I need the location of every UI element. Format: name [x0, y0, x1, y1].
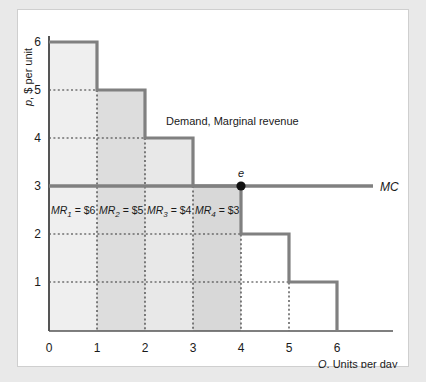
y-tick-4: 4	[34, 131, 41, 145]
equilibrium-point-e	[236, 181, 245, 190]
economics-step-chart: 6 5 4 3 2 1 0 1 2 3 4 5 6	[18, 10, 410, 368]
mr-label-2-prefix: MR	[99, 204, 116, 216]
y-axis-title: p, $ per unit	[22, 48, 34, 107]
x-tick-labels: 0 1 2 3 4 5 6	[46, 341, 341, 355]
mr-label-1-eq: =	[72, 204, 84, 216]
x-tick-4: 4	[238, 341, 245, 355]
y-tick-3: 3	[34, 179, 41, 193]
y-axis-title-text: , $ per unit	[22, 48, 34, 100]
mr-label-3-eq: =	[168, 204, 180, 216]
x-axis-title: Q, Units per day	[318, 358, 398, 368]
y-tick-labels: 6 5 4 3 2 1	[34, 35, 41, 289]
equilibrium-point-label: e	[238, 167, 244, 179]
x-axis-title-text: , Units per day	[327, 358, 398, 368]
figure-frame: 6 5 4 3 2 1 0 1 2 3 4 5 6	[0, 0, 426, 382]
mc-label: MC	[380, 180, 399, 194]
y-axis-title-var: p	[22, 100, 34, 107]
mr-label-1-value: $6	[84, 204, 96, 216]
x-tick-1: 1	[94, 341, 101, 355]
mr-label-1-prefix: MR	[51, 204, 68, 216]
mr-label-3-prefix: MR	[147, 204, 164, 216]
x-tick-6: 6	[334, 341, 341, 355]
mr-label-2-eq: =	[120, 204, 132, 216]
x-tick-5: 5	[286, 341, 293, 355]
figure-panel: 6 5 4 3 2 1 0 1 2 3 4 5 6	[17, 9, 409, 367]
mr-label-4-prefix: MR	[195, 204, 212, 216]
x-tick-2: 2	[142, 341, 149, 355]
y-tick-2: 2	[34, 227, 41, 241]
mr-label-4-eq: =	[216, 204, 228, 216]
y-tick-1: 1	[34, 275, 41, 289]
mr-label-2-value: $5	[132, 204, 144, 216]
y-tick-5: 5	[34, 83, 41, 97]
mr-label-4-value: $3	[228, 204, 240, 216]
demand-mr-label: Demand, Marginal revenue	[166, 115, 299, 127]
x-tick-3: 3	[190, 341, 197, 355]
mr-label-3-value: $4	[180, 204, 192, 216]
x-tick-0: 0	[46, 341, 53, 355]
y-tick-6: 6	[34, 35, 41, 49]
